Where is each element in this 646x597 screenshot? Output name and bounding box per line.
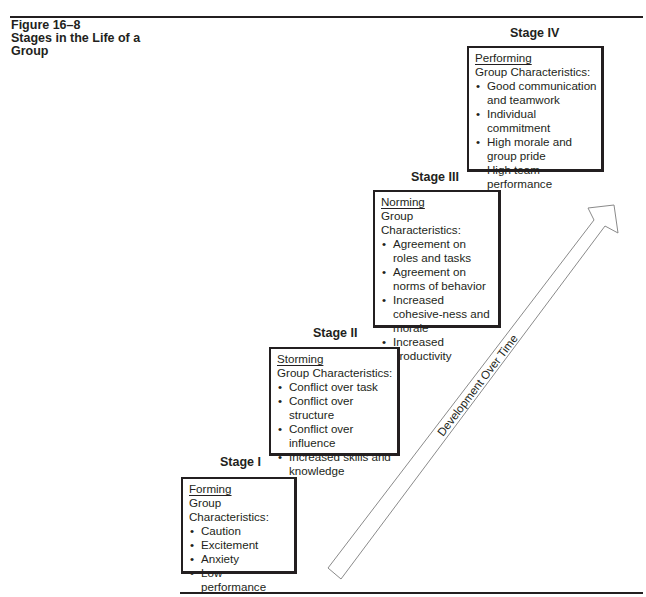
stage-2-subheading: Group Characteristics:	[277, 366, 393, 380]
list-item: •Conflict over task	[277, 380, 393, 394]
bullet-icon: •	[190, 538, 194, 552]
bullet-icon: •	[476, 107, 480, 121]
list-item: •Good communication and teamwork	[475, 79, 597, 107]
stage-1-name: Forming	[189, 482, 232, 495]
list-item: •Increased cohesive-ness and morale	[381, 293, 494, 335]
stage-2-characteristics: •Conflict over task •Conflict over struc…	[277, 380, 393, 478]
list-item: •Agreement on norms of behavior	[381, 265, 494, 293]
list-item: •Agreement on roles and tasks	[381, 237, 494, 265]
list-item: •Excitement	[189, 538, 290, 552]
bullet-icon: •	[476, 135, 480, 149]
stage-4-subheading: Group Characteristics:	[475, 65, 597, 79]
stage-2-box: Storming Group Characteristics: •Conflic…	[269, 347, 400, 456]
list-item: •Individual commitment	[475, 107, 597, 135]
bullet-icon: •	[382, 237, 386, 251]
stage-1-characteristics: •Caution •Excitement •Anxiety •Low perfo…	[189, 524, 290, 594]
bullet-icon: •	[476, 163, 480, 177]
stage-4-characteristics: •Good communication and teamwork •Indivi…	[475, 79, 597, 191]
list-item: •Low performance	[189, 566, 290, 594]
stage-4-name: Performing	[475, 51, 532, 64]
stage-3-subheading: Group Characteristics:	[381, 209, 494, 237]
stage-2-label: Stage II	[313, 326, 357, 340]
bullet-icon: •	[190, 566, 194, 580]
bullet-icon: •	[278, 422, 282, 436]
bullet-icon: •	[278, 380, 282, 394]
bullet-icon: •	[190, 524, 194, 538]
bullet-icon: •	[476, 79, 480, 93]
stage-4-label: Stage IV	[510, 26, 559, 40]
stage-3-box: Norming Group Characteristics: •Agreemen…	[373, 190, 501, 328]
stage-1-subheading: Group Characteristics:	[189, 496, 290, 524]
stage-3-characteristics: •Agreement on roles and tasks •Agreement…	[381, 237, 494, 363]
stage-4-box: Performing Group Characteristics: •Good …	[467, 46, 604, 172]
list-item: •Conflict over influence	[277, 422, 393, 450]
stage-2-name: Storming	[277, 352, 323, 365]
bullet-icon: •	[278, 394, 282, 408]
stage-3-label: Stage III	[411, 170, 459, 184]
bullet-icon: •	[190, 552, 194, 566]
stage-1-box: Forming Group Characteristics: •Caution …	[181, 477, 297, 574]
stage-3-name: Norming	[381, 195, 425, 208]
list-item: •High morale and group pride	[475, 135, 597, 163]
bullet-icon: •	[382, 265, 386, 279]
list-item: •High team performance	[475, 163, 597, 191]
list-item: •Anxiety	[189, 552, 290, 566]
bullet-icon: •	[382, 293, 386, 307]
bullet-icon: •	[278, 450, 282, 464]
list-item: •Conflict over structure	[277, 394, 393, 422]
list-item: •Caution	[189, 524, 290, 538]
list-item: •Increased skills and knowledge	[277, 450, 393, 478]
stage-1-label: Stage I	[220, 455, 261, 469]
